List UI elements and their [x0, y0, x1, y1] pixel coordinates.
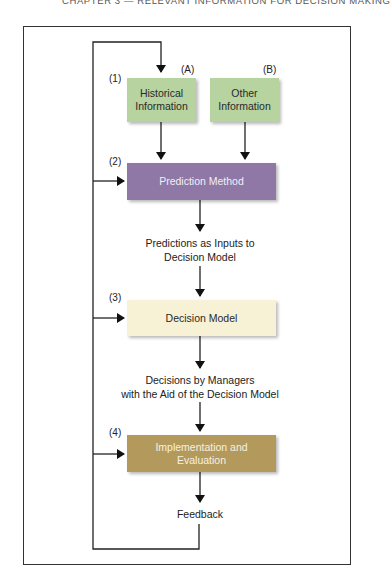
other-line2: Information [218, 100, 271, 113]
other-information-box: Other Information [210, 78, 279, 122]
prediction-method-box: Prediction Method [127, 163, 276, 200]
decisions-flow-label: Decisions by Managers with the Aid of th… [100, 373, 300, 401]
decision-model-label: Decision Model [166, 312, 238, 325]
predictions-line1: Predictions as Inputs to [110, 236, 290, 250]
decision-model-box: Decision Model [127, 300, 276, 336]
implementation-evaluation-box: Implementation and Evaluation [127, 435, 276, 472]
step-3-label: (3) [109, 292, 121, 303]
implementation-line1: Implementation and [155, 441, 247, 454]
predictions-line2: Decision Model [110, 250, 290, 264]
historical-information-box: Historical Information [127, 78, 196, 122]
source-b-label: (B) [263, 64, 276, 75]
predictions-flow-label: Predictions as Inputs to Decision Model [110, 236, 290, 264]
step-2-label: (2) [109, 156, 121, 167]
historical-line2: Information [135, 100, 188, 113]
prediction-method-label: Prediction Method [159, 175, 244, 188]
other-line1: Other [231, 87, 257, 100]
decisions-line2: with the Aid of the Decision Model [100, 387, 300, 401]
source-a-label: (A) [181, 64, 194, 75]
decisions-line1: Decisions by Managers [100, 373, 300, 387]
step-1-label: (1) [109, 73, 121, 84]
implementation-line2: Evaluation [177, 454, 226, 467]
historical-line1: Historical [140, 87, 183, 100]
step-4-label: (4) [109, 427, 121, 438]
feedback-label: Feedback [150, 507, 250, 521]
